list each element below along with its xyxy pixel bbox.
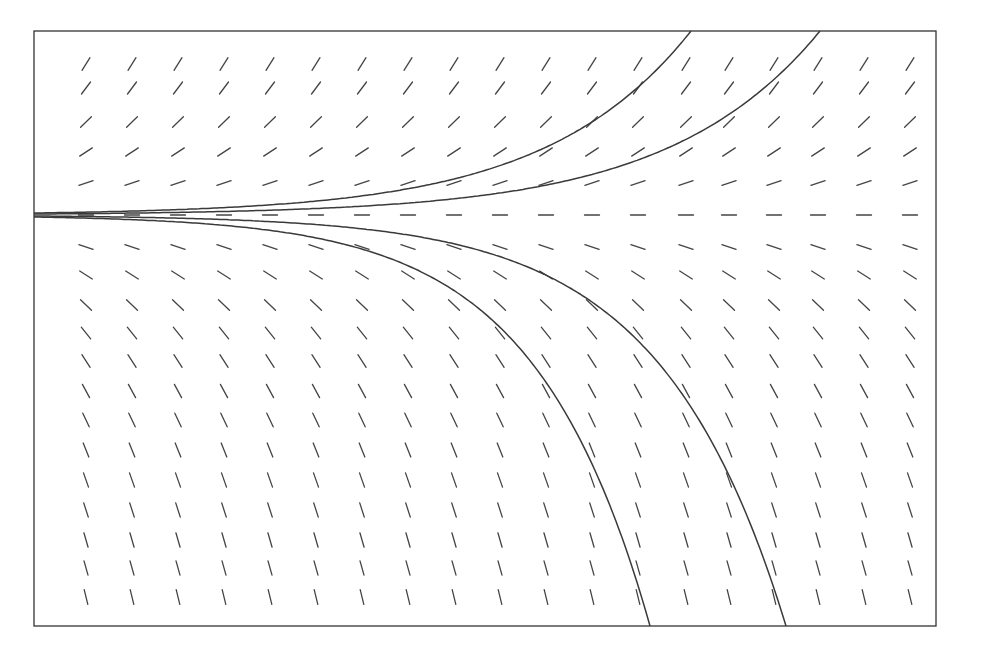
slope-segment bbox=[268, 473, 273, 487]
slope-segment bbox=[313, 413, 319, 427]
slope-segment bbox=[814, 82, 823, 94]
slope-segment bbox=[450, 355, 458, 368]
slope-segment bbox=[906, 82, 915, 94]
solution-curve-lower-outer bbox=[34, 217, 650, 626]
slope-segment bbox=[725, 58, 733, 71]
slope-segment bbox=[452, 503, 457, 517]
slope-segment bbox=[83, 443, 89, 457]
slope-segment bbox=[359, 443, 365, 457]
slope-segment bbox=[127, 117, 138, 127]
slope-segment bbox=[906, 384, 913, 397]
slope-segment bbox=[172, 148, 185, 156]
slope-segment bbox=[312, 384, 319, 397]
slope-segment bbox=[860, 384, 867, 397]
slope-segment bbox=[590, 561, 594, 575]
slope-segment bbox=[128, 384, 135, 397]
slope-segment bbox=[813, 117, 824, 127]
slope-segment bbox=[904, 148, 917, 156]
slope-segment bbox=[84, 473, 89, 487]
slope-segment bbox=[816, 533, 820, 547]
slope-segment bbox=[222, 590, 226, 605]
slope-segment bbox=[406, 503, 411, 517]
slope-segment bbox=[264, 271, 277, 279]
slope-segment bbox=[495, 300, 506, 310]
slope-segments bbox=[79, 58, 918, 605]
slope-segment bbox=[542, 355, 550, 368]
slope-segment bbox=[449, 117, 460, 127]
slope-segment bbox=[267, 443, 273, 457]
slope-segment bbox=[771, 413, 777, 427]
slope-segment bbox=[679, 245, 693, 250]
slope-segment bbox=[222, 503, 227, 517]
slope-segment bbox=[171, 181, 185, 186]
slope-segment bbox=[724, 327, 733, 339]
slope-segment bbox=[314, 503, 319, 517]
slope-segment bbox=[498, 473, 503, 487]
slope-segment bbox=[310, 148, 323, 156]
slope-segment bbox=[358, 384, 365, 397]
slope-segment bbox=[727, 561, 731, 575]
slope-segment bbox=[767, 181, 781, 186]
slope-segment bbox=[498, 503, 503, 517]
slope-segment bbox=[406, 561, 410, 575]
slope-segment bbox=[816, 561, 820, 575]
slope-segment bbox=[812, 271, 825, 279]
slope-segment bbox=[631, 245, 645, 250]
slope-segment bbox=[543, 413, 549, 427]
slope-segment bbox=[126, 148, 139, 156]
slope-segment bbox=[634, 355, 642, 368]
slope-segment bbox=[903, 181, 917, 186]
slope-segment bbox=[814, 384, 821, 397]
slope-segment bbox=[862, 590, 866, 605]
slope-segment bbox=[908, 561, 912, 575]
slope-segment bbox=[217, 181, 231, 186]
slope-segment bbox=[268, 503, 273, 517]
slope-segment bbox=[127, 327, 136, 339]
slope-segment bbox=[450, 58, 458, 71]
slope-segment bbox=[129, 443, 135, 457]
slope-segment bbox=[585, 245, 599, 250]
slope-segment bbox=[907, 443, 913, 457]
slope-segment bbox=[358, 355, 366, 368]
slope-segment bbox=[406, 473, 411, 487]
slope-segment bbox=[586, 271, 599, 279]
slope-segment bbox=[860, 58, 868, 71]
slope-segment bbox=[496, 82, 505, 94]
slope-segment bbox=[862, 533, 866, 547]
slope-segment bbox=[495, 327, 504, 339]
slope-segment bbox=[727, 590, 731, 605]
slope-segment bbox=[496, 384, 503, 397]
slope-segment bbox=[448, 148, 461, 156]
slope-segment bbox=[589, 413, 595, 427]
slope-segment bbox=[860, 355, 868, 368]
slope-segment bbox=[680, 271, 693, 279]
slope-segment bbox=[633, 300, 644, 310]
slope-segment bbox=[127, 300, 138, 310]
slope-segment bbox=[401, 245, 415, 250]
slope-segment bbox=[266, 58, 274, 71]
slope-segment bbox=[403, 327, 412, 339]
slope-segment bbox=[265, 327, 274, 339]
slope-segment bbox=[772, 561, 776, 575]
slope-segment bbox=[590, 503, 595, 517]
slope-segment bbox=[176, 590, 180, 605]
slope-segment bbox=[220, 82, 229, 94]
slope-segment bbox=[859, 117, 870, 127]
slope-segment bbox=[768, 148, 781, 156]
slope-segment bbox=[544, 503, 549, 517]
slope-segment bbox=[126, 271, 139, 279]
slope-segment bbox=[404, 58, 412, 71]
slope-segment bbox=[219, 327, 228, 339]
slope-segment bbox=[494, 271, 507, 279]
slope-segment bbox=[636, 561, 640, 575]
slope-segment bbox=[588, 355, 596, 368]
slope-segment bbox=[772, 473, 777, 487]
slope-segment bbox=[221, 413, 227, 427]
slope-segment bbox=[907, 413, 913, 427]
slope-segment bbox=[860, 82, 869, 94]
slope-segment bbox=[812, 148, 825, 156]
slope-segment bbox=[222, 533, 226, 547]
slope-segment bbox=[772, 533, 776, 547]
slope-segment bbox=[636, 473, 641, 487]
slope-segment bbox=[636, 503, 641, 517]
